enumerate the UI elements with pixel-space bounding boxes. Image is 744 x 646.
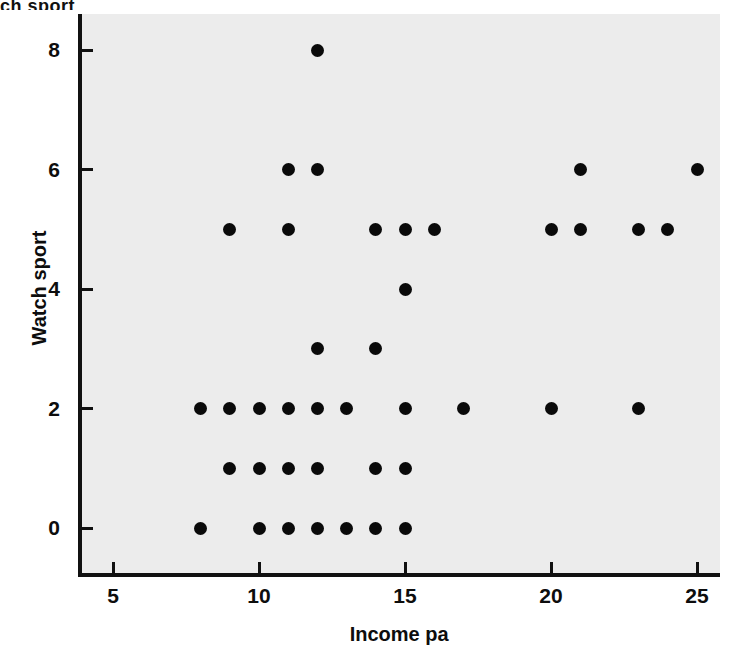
- x-tick-mark: [404, 562, 407, 574]
- x-tick-mark: [112, 562, 115, 574]
- data-point: [457, 402, 470, 415]
- y-axis-title: Watch sport: [28, 213, 51, 363]
- data-point: [399, 223, 412, 236]
- data-point: [311, 163, 324, 176]
- data-point: [369, 522, 382, 535]
- data-point: [399, 462, 412, 475]
- data-point: [340, 522, 353, 535]
- data-point: [311, 522, 324, 535]
- x-axis-title: Income pa: [319, 623, 479, 646]
- data-point: [574, 163, 587, 176]
- data-point: [282, 522, 295, 535]
- data-point: [311, 402, 324, 415]
- data-point: [253, 402, 266, 415]
- data-point: [282, 163, 295, 176]
- data-point: [661, 223, 674, 236]
- data-point: [282, 462, 295, 475]
- data-point: [545, 223, 558, 236]
- data-point: [194, 402, 207, 415]
- data-point: [399, 402, 412, 415]
- data-point: [340, 402, 353, 415]
- data-point: [369, 223, 382, 236]
- data-point: [399, 522, 412, 535]
- y-tick-label: 2: [26, 398, 60, 419]
- x-tick-label: 20: [521, 585, 581, 606]
- y-tick-mark: [81, 288, 93, 291]
- partial-clipped-title: ch sport: [0, 0, 75, 10]
- data-point: [223, 462, 236, 475]
- y-tick-mark: [81, 407, 93, 410]
- data-point: [194, 522, 207, 535]
- y-tick-label: 6: [26, 159, 60, 180]
- x-axis-line: [78, 573, 720, 577]
- data-point: [428, 223, 441, 236]
- x-tick-label: 10: [229, 585, 289, 606]
- data-point: [632, 223, 645, 236]
- x-tick-mark: [696, 562, 699, 574]
- data-point: [311, 44, 324, 57]
- data-point: [311, 462, 324, 475]
- data-point: [574, 223, 587, 236]
- x-tick-label: 25: [667, 585, 727, 606]
- data-point: [632, 402, 645, 415]
- y-tick-label: 8: [26, 39, 60, 60]
- y-axis-line: [78, 14, 82, 573]
- x-tick-label: 5: [83, 585, 143, 606]
- y-tick-mark: [81, 168, 93, 171]
- x-tick-mark: [550, 562, 553, 574]
- x-tick-label: 15: [375, 585, 435, 606]
- data-point: [545, 402, 558, 415]
- x-tick-mark: [258, 562, 261, 574]
- plot-background: [78, 14, 720, 573]
- data-point: [399, 283, 412, 296]
- data-point: [253, 522, 266, 535]
- data-point: [691, 163, 704, 176]
- y-tick-mark: [81, 49, 93, 52]
- y-tick-label: 0: [26, 517, 60, 538]
- data-point: [223, 223, 236, 236]
- y-tick-mark: [81, 527, 93, 530]
- data-point: [369, 462, 382, 475]
- data-point: [282, 223, 295, 236]
- data-point: [282, 402, 295, 415]
- data-point: [253, 462, 266, 475]
